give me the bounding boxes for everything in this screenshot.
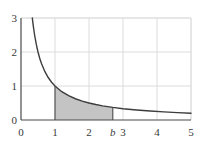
y-tick-label-1: 1 <box>6 81 17 92</box>
x-tick-label-1: 1 <box>52 127 58 138</box>
plot-frame <box>21 18 191 120</box>
x-tick-label-2: 2 <box>86 127 92 138</box>
chart-figure: 012b345 0123 <box>0 0 202 144</box>
x-tick-label-3: 3 <box>120 127 126 138</box>
x-tick-label-4: 4 <box>154 127 160 138</box>
plot-canvas <box>0 0 202 144</box>
x-tick-label-b: b <box>110 127 116 138</box>
x-tick-label-5: 5 <box>188 127 194 138</box>
y-tick-label-0: 0 <box>6 115 17 126</box>
x-tick-label-0: 0 <box>18 127 24 138</box>
y-tick-label-2: 2 <box>6 47 17 58</box>
axes <box>21 18 191 120</box>
shaded-area-region <box>55 86 113 120</box>
y-tick-label-3: 3 <box>6 13 17 24</box>
